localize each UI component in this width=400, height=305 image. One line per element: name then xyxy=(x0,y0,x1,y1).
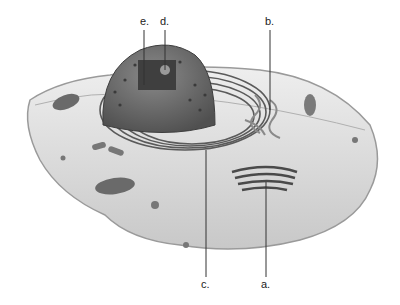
cell-illustration xyxy=(0,0,400,305)
cell-diagram: e. d. b. c. a. xyxy=(0,0,400,305)
label-a: a. xyxy=(261,279,270,290)
mitochondrion xyxy=(304,94,316,116)
label-e: e. xyxy=(140,16,149,27)
label-d: d. xyxy=(160,16,169,27)
label-c: c. xyxy=(201,279,210,290)
label-b: b. xyxy=(265,16,274,27)
